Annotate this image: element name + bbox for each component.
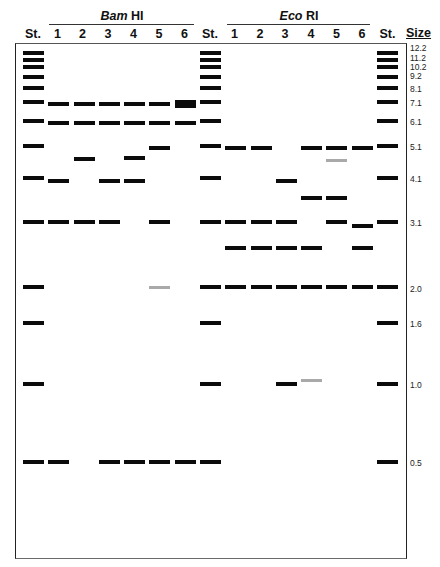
band: [301, 285, 322, 289]
band: [99, 220, 120, 224]
ladder-band: [23, 58, 44, 62]
ladder-band: [200, 460, 221, 464]
ladder-band: [200, 75, 221, 79]
band: [225, 285, 246, 289]
ladder-band: [377, 285, 398, 289]
ladder-band: [23, 100, 44, 104]
band: [326, 196, 347, 200]
band: [149, 460, 170, 464]
ladder-band: [23, 75, 44, 79]
ladder-band: [200, 58, 221, 62]
band: [175, 460, 196, 464]
gel-electrophoresis-diagram: Bam HI Eco RI St. 1 2 3 4 5 6 St. 1 2 3 …: [0, 0, 440, 567]
ladder-band: [377, 100, 398, 104]
group-title-bamhi: Bam HI: [100, 9, 143, 23]
ladder-band: [200, 321, 221, 325]
band: [352, 285, 373, 289]
ladder-band: [377, 65, 398, 69]
band: [251, 220, 272, 224]
ladder-band: [377, 144, 398, 148]
band: [326, 285, 347, 289]
band: [74, 220, 95, 224]
size-marker-label: 1.6: [410, 319, 422, 329]
faint-band: [149, 286, 170, 289]
ladder-band: [200, 220, 221, 224]
size-marker-label: 9.2: [410, 71, 422, 81]
size-marker-label: 8.1: [410, 84, 422, 94]
group-title-ecori: Eco RI: [280, 9, 319, 23]
band: [276, 179, 297, 183]
band: [276, 285, 297, 289]
band: [149, 121, 170, 125]
band: [175, 121, 196, 125]
band: [175, 100, 196, 108]
ladder-band: [377, 460, 398, 464]
group-rule-ecori: [227, 24, 370, 25]
ladder-band: [200, 100, 221, 104]
ladder-band: [200, 285, 221, 289]
size-marker-label: 0.5: [410, 458, 422, 468]
band: [276, 220, 297, 224]
band: [99, 121, 120, 125]
enzyme-name-italic: Eco: [280, 9, 303, 23]
band: [301, 246, 322, 250]
band: [149, 102, 170, 106]
size-marker-label: 12.2: [410, 43, 427, 53]
band: [225, 246, 246, 250]
size-marker-label: 6.1: [410, 117, 422, 127]
size-marker-label: 7.1: [410, 98, 422, 108]
ladder-band: [200, 51, 221, 55]
band: [352, 246, 373, 250]
group-rule-bamhi: [49, 24, 194, 25]
ladder-band: [23, 321, 44, 325]
band: [124, 179, 145, 183]
ladder-band: [23, 176, 44, 180]
band: [99, 102, 120, 106]
ladder-band: [377, 176, 398, 180]
ladder-band: [23, 144, 44, 148]
ladder-band: [23, 285, 44, 289]
lane-label-standard-right: St.: [373, 27, 403, 41]
band: [99, 460, 120, 464]
ladder-band: [200, 65, 221, 69]
ladder-band: [377, 220, 398, 224]
ladder-band: [23, 220, 44, 224]
band: [301, 196, 322, 200]
band: [326, 220, 347, 224]
band: [99, 179, 120, 183]
faint-band: [326, 159, 347, 162]
band: [149, 146, 170, 150]
band: [251, 146, 272, 150]
band: [301, 146, 322, 150]
ladder-band: [23, 382, 44, 386]
ladder-band: [23, 51, 44, 55]
band: [74, 121, 95, 125]
band: [251, 246, 272, 250]
ladder-band: [23, 119, 44, 123]
band: [149, 220, 170, 224]
band: [48, 460, 69, 464]
size-column-header: Size: [406, 26, 431, 40]
faint-band: [301, 379, 322, 382]
ladder-band: [200, 119, 221, 123]
ladder-band: [23, 86, 44, 90]
band: [74, 157, 95, 161]
band: [276, 382, 297, 386]
band: [225, 220, 246, 224]
enzyme-name-suffix: HI: [131, 9, 144, 23]
band: [48, 220, 69, 224]
ladder-band: [23, 460, 44, 464]
band: [276, 246, 297, 250]
ladder-band: [200, 144, 221, 148]
size-marker-label: 2.0: [410, 284, 422, 294]
enzyme-name-suffix: RI: [306, 9, 319, 23]
ladder-band: [200, 86, 221, 90]
size-marker-label: 3.1: [410, 218, 422, 228]
ladder-band: [377, 51, 398, 55]
ladder-band: [200, 176, 221, 180]
ladder-band: [200, 382, 221, 386]
band: [225, 146, 246, 150]
size-marker-label: 5.1: [410, 142, 422, 152]
band: [124, 156, 145, 160]
ladder-band: [23, 65, 44, 69]
